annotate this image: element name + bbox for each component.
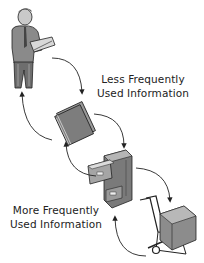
arrow-person-to-folder — [52, 58, 82, 92]
hand-truck-box-icon — [140, 196, 196, 254]
filing-cabinet-icon — [88, 150, 132, 208]
information-cycle-diagram: Less Frequently Used Information More Fr… — [0, 0, 204, 263]
file-folder-icon — [54, 102, 96, 146]
less-frequent-line1: Less Frequently — [84, 72, 202, 86]
less-frequent-line2: Used Information — [84, 86, 202, 100]
arrow-folder-to-person — [22, 94, 52, 140]
more-frequent-label: More Frequently Used Information — [6, 203, 106, 231]
more-frequent-line2: Used Information — [6, 217, 106, 231]
less-frequent-label: Less Frequently Used Information — [84, 72, 202, 100]
arrow-truck-to-cabinet — [115, 218, 146, 256]
more-frequent-line1: More Frequently — [6, 203, 106, 217]
man-reading-book-icon — [12, 8, 55, 88]
arrow-cabinet-to-truck — [136, 168, 170, 200]
arrow-folder-to-cabinet — [94, 114, 124, 146]
